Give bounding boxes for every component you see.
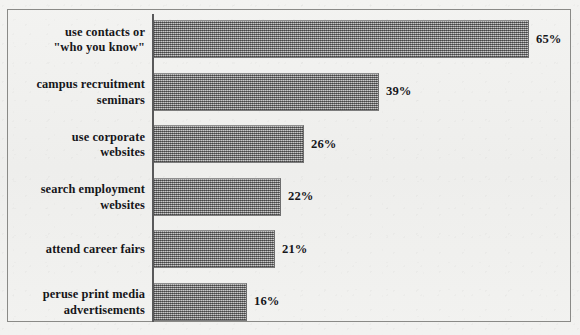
chart-row: use contacts or "who you know" 65% [0, 14, 580, 66]
category-label: search employment websites [8, 172, 145, 224]
bar-group: 65% [154, 20, 562, 58]
chart-row: campus recruitment seminars 39% [0, 67, 580, 119]
category-label-line: websites [100, 198, 145, 214]
category-label-line: attend career fairs [46, 242, 145, 258]
bar[interactable] [154, 73, 379, 111]
category-label-line: peruse print media [43, 287, 145, 303]
chart-row: use corporate websites 26% [0, 119, 580, 171]
bar-group: 22% [154, 178, 314, 216]
category-label-line: use contacts or [65, 25, 145, 41]
bar-value-label: 16% [254, 294, 280, 309]
bar-chart-screenshot: use contacts or "who you know" 65% campu… [0, 0, 580, 335]
category-label-line: use corporate [72, 130, 145, 146]
bar-value-label: 65% [536, 32, 562, 47]
category-label-line: search employment [41, 182, 145, 198]
chart-row: attend career fairs 21% [0, 224, 580, 276]
category-label-line: seminars [97, 93, 145, 109]
bar-group: 16% [154, 283, 280, 321]
category-label-line: websites [100, 145, 145, 161]
category-label: use contacts or "who you know" [8, 14, 145, 66]
bar-value-label: 21% [282, 242, 308, 257]
bar[interactable] [154, 20, 529, 58]
category-label: campus recruitment seminars [8, 67, 145, 119]
bar-group: 26% [154, 125, 337, 163]
chart-row: search employment websites 22% [0, 172, 580, 224]
bar[interactable] [154, 283, 247, 321]
bar-value-label: 39% [386, 84, 412, 99]
bar-value-label: 22% [288, 189, 314, 204]
category-label-line: advertisements [64, 303, 145, 319]
category-label: attend career fairs [8, 224, 145, 276]
bar-group: 39% [154, 73, 412, 111]
chart-plot-area: use contacts or "who you know" 65% campu… [0, 0, 580, 335]
bar[interactable] [154, 230, 275, 268]
bar-value-label: 26% [311, 137, 337, 152]
bar[interactable] [154, 125, 304, 163]
category-label: use corporate websites [8, 119, 145, 171]
category-label-line: "who you know" [53, 40, 145, 56]
category-label: peruse print media advertisements [8, 277, 145, 329]
category-label-line: campus recruitment [36, 77, 145, 93]
chart-row: peruse print media advertisements 16% [0, 277, 580, 329]
bar-group: 21% [154, 230, 308, 268]
bar[interactable] [154, 178, 281, 216]
